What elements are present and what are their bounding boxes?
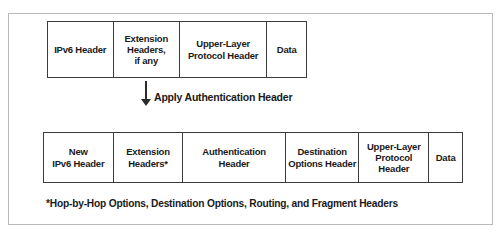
ipv6-authentication-header-diagram: IPv6 Header Extension Headers, if any Up… [0,0,504,240]
packet-cell-authentication-header: Authentication Header [183,133,286,182]
packet-cell-extension-headers: Extension Headers, if any [114,22,180,77]
packet-cell-data-2: Data [429,133,462,182]
transform-arrow-group: Apply Authentication Header [141,80,381,108]
original-packet-row: IPv6 Header Extension Headers, if any Up… [47,21,307,78]
footnote-text: *Hop-by-Hop Options, Destination Options… [46,198,398,210]
packet-cell-data: Data [267,22,306,77]
packet-cell-destination-options-header: Destination Options Header [286,133,360,182]
packet-cell-upper-layer-protocol-header: Upper-Layer Protocol Header [180,22,267,77]
transform-label: Apply Authentication Header [154,91,292,103]
authenticated-packet-row: New IPv6 Header Extension Headers* Authe… [43,132,463,183]
packet-cell-new-ipv6-header: New IPv6 Header [44,133,114,182]
packet-cell-ipv6-header: IPv6 Header [48,22,114,77]
packet-cell-upper-layer-protocol-header-2: Upper-Layer Protocol Header [359,133,429,182]
packet-cell-extension-headers-starred: Extension Headers* [114,133,184,182]
down-arrow-head-icon [141,99,151,106]
down-arrow-icon [145,81,147,101]
